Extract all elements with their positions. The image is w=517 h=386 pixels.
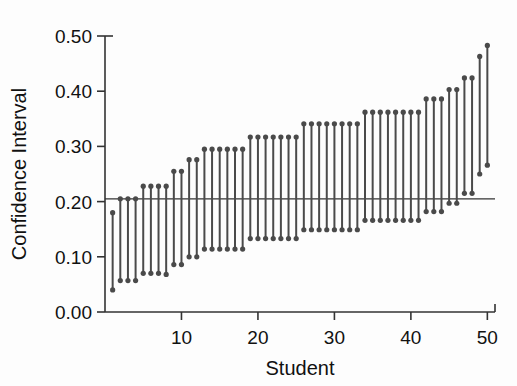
interval-lower-marker: [339, 227, 344, 232]
x-tick-label: 20: [247, 327, 268, 348]
interval-upper-marker: [424, 96, 429, 101]
interval-lower-marker: [271, 236, 276, 241]
interval-upper-marker: [164, 184, 169, 189]
x-axis-title: Student: [266, 357, 335, 379]
interval-lower-marker: [209, 246, 214, 251]
interval-lower-marker: [278, 236, 283, 241]
interval-lower-marker: [477, 171, 482, 176]
interval-upper-marker: [347, 121, 352, 126]
interval-upper-marker: [110, 210, 115, 215]
interval-lower-marker: [431, 209, 436, 214]
interval-lower-marker: [118, 278, 123, 283]
interval-lower-marker: [393, 218, 398, 223]
interval-lower-marker: [194, 254, 199, 259]
interval-lower-marker: [148, 271, 153, 276]
interval-upper-marker: [462, 75, 467, 80]
interval-lower-marker: [454, 201, 459, 206]
interval-upper-marker: [378, 110, 383, 115]
y-tick-label: 0.40: [55, 81, 92, 102]
interval-upper-marker: [339, 121, 344, 126]
interval-upper-marker: [202, 147, 207, 152]
interval-upper-marker: [355, 121, 360, 126]
interval-upper-marker: [194, 157, 199, 162]
interval-upper-marker: [317, 121, 322, 126]
interval-lower-marker: [179, 262, 184, 267]
interval-lower-marker: [202, 246, 207, 251]
interval-upper-marker: [271, 134, 276, 139]
interval-lower-marker: [294, 236, 299, 241]
interval-lower-marker: [317, 227, 322, 232]
interval-upper-marker: [156, 184, 161, 189]
interval-lower-marker: [133, 278, 138, 283]
y-axis-title: Confidence Interval: [8, 88, 30, 260]
interval-upper-marker: [332, 121, 337, 126]
interval-lower-marker: [378, 218, 383, 223]
interval-upper-marker: [225, 147, 230, 152]
x-tick-label: 30: [324, 327, 345, 348]
interval-upper-marker: [255, 134, 260, 139]
interval-upper-marker: [232, 147, 237, 152]
interval-upper-marker: [447, 87, 452, 92]
interval-upper-marker: [118, 196, 123, 201]
interval-upper-marker: [469, 75, 474, 80]
interval-lower-marker: [171, 262, 176, 267]
interval-lower-marker: [110, 287, 115, 292]
interval-upper-marker: [240, 147, 245, 152]
interval-lower-marker: [362, 218, 367, 223]
interval-lower-marker: [424, 209, 429, 214]
x-tick-label: 10: [171, 327, 192, 348]
interval-upper-marker: [370, 110, 375, 115]
y-tick-label: 0.20: [55, 192, 92, 213]
interval-lower-marker: [347, 227, 352, 232]
interval-lower-marker: [301, 227, 306, 232]
interval-upper-marker: [454, 87, 459, 92]
confidence-interval-chart: 0.000.100.200.300.400.50 1020304050 Stud…: [0, 0, 517, 386]
interval-lower-marker: [408, 218, 413, 223]
interval-lower-marker: [416, 218, 421, 223]
interval-lower-marker: [263, 236, 268, 241]
interval-upper-marker: [324, 121, 329, 126]
interval-upper-marker: [439, 96, 444, 101]
y-tick-label: 0.50: [55, 26, 92, 47]
y-tick-label: 0.00: [55, 302, 92, 323]
interval-lower-marker: [141, 271, 146, 276]
interval-lower-marker: [370, 218, 375, 223]
interval-upper-marker: [125, 196, 130, 201]
interval-upper-marker: [187, 157, 192, 162]
interval-upper-marker: [477, 54, 482, 59]
interval-lower-marker: [240, 246, 245, 251]
interval-upper-marker: [278, 134, 283, 139]
interval-lower-marker: [232, 246, 237, 251]
interval-upper-marker: [401, 110, 406, 115]
interval-upper-marker: [148, 184, 153, 189]
interval-lower-marker: [324, 227, 329, 232]
interval-lower-marker: [248, 236, 253, 241]
interval-upper-marker: [217, 147, 222, 152]
x-tick-label: 50: [477, 327, 498, 348]
interval-upper-marker: [408, 110, 413, 115]
interval-lower-marker: [385, 218, 390, 223]
interval-upper-marker: [393, 110, 398, 115]
interval-lower-marker: [462, 191, 467, 196]
interval-upper-marker: [263, 134, 268, 139]
interval-upper-marker: [416, 110, 421, 115]
interval-lower-marker: [309, 227, 314, 232]
interval-lower-marker: [255, 236, 260, 241]
interval-lower-marker: [125, 278, 130, 283]
interval-lower-marker: [332, 227, 337, 232]
interval-upper-marker: [309, 121, 314, 126]
interval-lower-marker: [401, 218, 406, 223]
y-tick-label: 0.10: [55, 247, 92, 268]
interval-lower-marker: [469, 191, 474, 196]
interval-lower-marker: [187, 254, 192, 259]
interval-lower-marker: [439, 209, 444, 214]
interval-upper-marker: [141, 184, 146, 189]
interval-upper-marker: [286, 134, 291, 139]
interval-lower-marker: [447, 201, 452, 206]
interval-lower-marker: [225, 246, 230, 251]
interval-lower-marker: [156, 271, 161, 276]
interval-upper-marker: [248, 134, 253, 139]
interval-lower-marker: [164, 272, 169, 277]
interval-lower-marker: [286, 236, 291, 241]
interval-lower-marker: [485, 163, 490, 168]
